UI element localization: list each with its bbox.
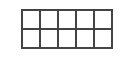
grid-cell [40,10,58,29]
grid-cell [58,29,76,48]
grid-cell [94,29,112,48]
grid-cell [76,10,94,29]
grid-cell [22,10,40,29]
grid-cell [58,10,76,29]
grid-cell [94,10,112,29]
grid-cell [22,29,40,48]
ten-frame-grid [21,9,113,49]
grid-cell [76,29,94,48]
grid-cell [40,29,58,48]
